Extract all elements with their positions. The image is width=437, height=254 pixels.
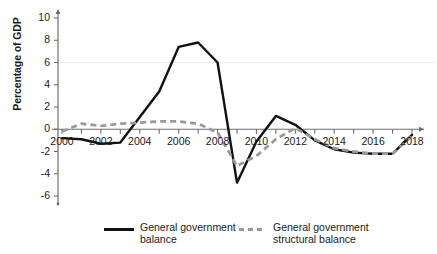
x-tick-label: 2010 xyxy=(239,135,273,147)
x-tick-label: 2002 xyxy=(84,135,118,147)
legend-item-general-government-balance: General government balance xyxy=(104,222,236,245)
x-tick-label: 2008 xyxy=(201,135,235,147)
x-tick-label: 2016 xyxy=(356,135,390,147)
x-tick-label: 2012 xyxy=(278,135,312,147)
x-tick-label: 2006 xyxy=(162,135,196,147)
y-tick-label: 8 xyxy=(28,33,50,45)
series-line-general-government-balance xyxy=(62,42,412,182)
y-axis-end-marker xyxy=(57,203,60,206)
chart-plot-area xyxy=(0,0,437,218)
chart-container: Percentage of GDP 1086420-2-4-6 20002002… xyxy=(0,0,437,254)
y-axis-arrow-icon xyxy=(55,9,60,14)
y-tick-label: 2 xyxy=(28,100,50,112)
legend-item-general-government-structural-balance: General government structural balance xyxy=(237,222,369,245)
y-tick-label: -4 xyxy=(28,167,50,179)
x-tick-label: 2018 xyxy=(395,135,429,147)
legend-swatch-solid-line-icon xyxy=(104,222,134,236)
legend-swatch-dashed-line-icon xyxy=(237,222,267,236)
legend-label: General government balance xyxy=(140,222,236,245)
y-tick-label: 10 xyxy=(28,11,50,23)
x-axis-arrow-icon xyxy=(419,127,424,132)
x-tick-label: 2014 xyxy=(317,135,351,147)
x-tick-label: 2000 xyxy=(45,135,79,147)
y-tick-label: 6 xyxy=(28,56,50,68)
legend-label: General government structural balance xyxy=(273,222,369,245)
y-tick-label: -6 xyxy=(28,189,50,201)
y-tick-label: 4 xyxy=(28,78,50,90)
y-tick-label: 0 xyxy=(28,122,50,134)
chart-legend: General government balance General gover… xyxy=(0,218,437,254)
x-tick-label: 2004 xyxy=(123,135,157,147)
